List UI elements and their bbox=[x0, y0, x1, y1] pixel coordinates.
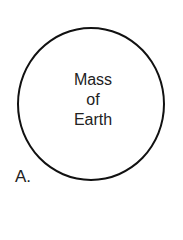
option-letter: A. bbox=[15, 167, 31, 187]
circle-label: Mass of Earth bbox=[17, 70, 169, 130]
label-line-2: of bbox=[17, 90, 169, 110]
label-line-1: Mass bbox=[17, 70, 169, 90]
label-line-3: Earth bbox=[17, 110, 169, 130]
